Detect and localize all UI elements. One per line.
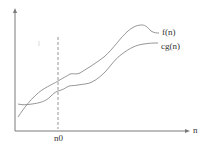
- curve-f-n: [18, 25, 159, 117]
- diagram-canvas: f(n) cg(n) n n0: [0, 0, 208, 151]
- label-f-n: f(n): [162, 27, 176, 37]
- y-axis-arrow-icon: [13, 8, 17, 13]
- x-axis-arrow-icon: [185, 129, 190, 133]
- curve-cg-n: [18, 43, 158, 105]
- label-n0: n0: [54, 133, 64, 143]
- label-x-axis-n: n: [193, 125, 198, 135]
- label-cg-n: cg(n): [161, 41, 180, 51]
